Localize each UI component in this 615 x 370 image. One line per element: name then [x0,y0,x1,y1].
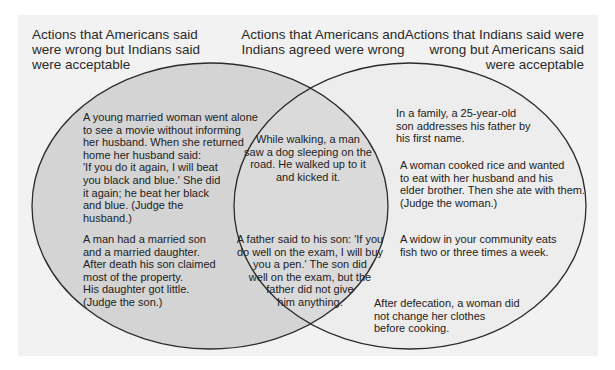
header-left: Actions that Americans said were wrong b… [32,27,200,72]
left-item-1: A young married woman went alone to see … [83,111,258,224]
right-item-2: A woman cooked rice and wanted to eat wi… [400,159,585,209]
left-item-2: A man had a married son and a married da… [83,233,216,309]
right-item-4: After defecation, a woman did not change… [374,297,520,335]
middle-item-1: While walking, a man saw a dog sleeping … [238,133,378,183]
middle-item-2: A father said to his son: 'If you do wel… [232,233,388,309]
header-right: Actions that Indians said were wrong but… [380,27,584,72]
right-item-1: In a family, a 25-year-old son addresses… [396,107,531,145]
right-item-3: A widow in your community eats fish two … [400,233,557,258]
